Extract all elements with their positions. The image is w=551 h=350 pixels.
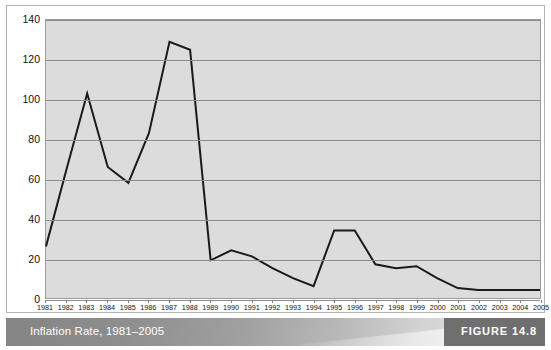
x-tick-label-1996: 1996 xyxy=(347,304,363,312)
plot-area xyxy=(45,19,541,299)
x-tick-label-1986: 1986 xyxy=(140,304,156,312)
x-tick-label-1982: 1982 xyxy=(58,304,74,312)
x-tick-label-1984: 1984 xyxy=(99,304,115,312)
y-tick-label-100: 100 xyxy=(22,94,40,104)
y-tick-label-140: 140 xyxy=(22,14,40,24)
caption-bar: Inflation Rate, 1981–2005 FIGURE 14.8 xyxy=(6,318,545,346)
y-tick-label-20: 20 xyxy=(28,254,40,264)
x-tick-label-1994: 1994 xyxy=(306,304,322,312)
gridline-100 xyxy=(46,100,540,101)
x-tick-label-1981: 1981 xyxy=(37,304,53,312)
x-tick-label-1991: 1991 xyxy=(244,304,260,312)
gridline-120 xyxy=(46,60,540,61)
gridline-140 xyxy=(46,20,540,21)
x-tick-label-2003: 2003 xyxy=(492,304,508,312)
x-tick-label-1995: 1995 xyxy=(326,304,342,312)
x-tick-label-1983: 1983 xyxy=(78,304,94,312)
x-tick-label-1989: 1989 xyxy=(202,304,218,312)
gridline-80 xyxy=(46,140,540,141)
x-tick-label-2004: 2004 xyxy=(512,304,528,312)
x-tick-label-1988: 1988 xyxy=(182,304,198,312)
gridline-40 xyxy=(46,220,540,221)
x-tick-label-1992: 1992 xyxy=(264,304,280,312)
x-tick-label-2002: 2002 xyxy=(471,304,487,312)
x-tick-label-2001: 2001 xyxy=(450,304,466,312)
gridline-60 xyxy=(46,180,540,181)
x-tick-label-2005: 2005 xyxy=(533,304,549,312)
figure-container: 020406080100120140 198119821983198419851… xyxy=(0,0,551,350)
x-tick-label-1990: 1990 xyxy=(223,304,239,312)
x-tick-label-1993: 1993 xyxy=(285,304,301,312)
line-series-svg xyxy=(46,20,540,298)
y-tick-label-60: 60 xyxy=(28,174,40,184)
gridline-20 xyxy=(46,260,540,261)
y-tick-label-120: 120 xyxy=(22,54,40,64)
caption-title: Inflation Rate, 1981–2005 xyxy=(30,325,164,337)
figure-number-label: FIGURE 14.8 xyxy=(461,325,537,337)
x-tick-label-1998: 1998 xyxy=(388,304,404,312)
y-tick-label-80: 80 xyxy=(28,134,40,144)
x-tick-label-1987: 1987 xyxy=(161,304,177,312)
chart-frame: 020406080100120140 198119821983198419851… xyxy=(6,5,545,313)
x-tick-label-2000: 2000 xyxy=(430,304,446,312)
y-tick-label-40: 40 xyxy=(28,214,40,224)
y-axis: 020406080100120140 xyxy=(7,6,45,314)
inflation-rate-line xyxy=(46,42,540,290)
x-tick-label-1985: 1985 xyxy=(120,304,136,312)
x-tick-label-1999: 1999 xyxy=(409,304,425,312)
x-axis: 1981198219831984198519861987198819891990… xyxy=(45,300,541,318)
x-tick-label-1997: 1997 xyxy=(368,304,384,312)
